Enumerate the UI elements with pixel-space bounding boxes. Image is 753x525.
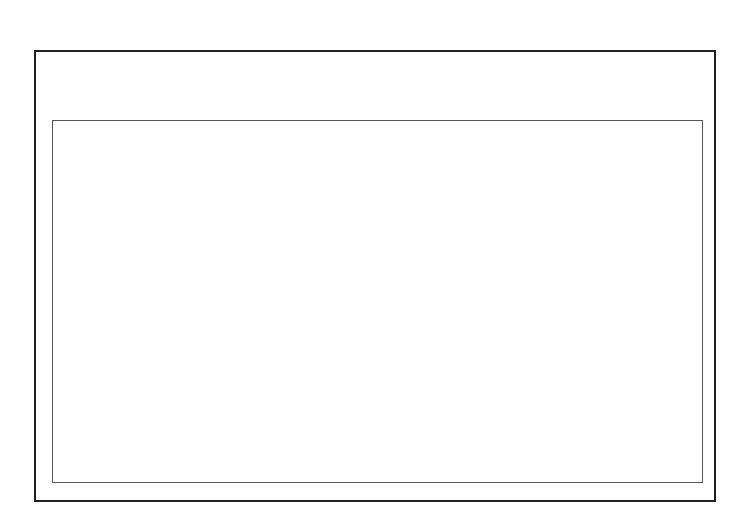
figure-root	[0, 0, 753, 525]
hierarchy-tree-svg	[0, 0, 753, 525]
